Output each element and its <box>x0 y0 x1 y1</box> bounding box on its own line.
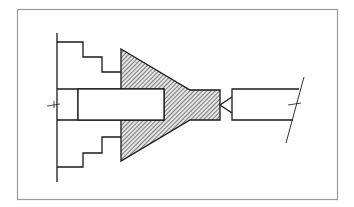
technical-drawing <box>0 0 354 207</box>
center-point <box>220 97 232 113</box>
bore <box>78 89 164 120</box>
break-line <box>286 77 304 143</box>
